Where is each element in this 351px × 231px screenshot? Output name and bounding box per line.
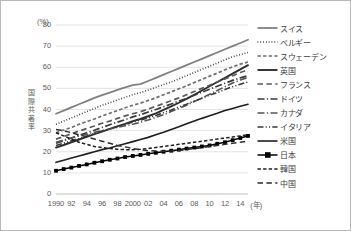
legend-label: カナダ — [280, 107, 303, 118]
y-axis-tick-label: 30 — [31, 126, 51, 135]
legend-line-icon — [257, 37, 278, 47]
y-axis-tick-label: 40 — [31, 105, 51, 114]
y-axis-tick-label: 70 — [31, 41, 51, 50]
y-axis-tick-label: 50 — [31, 83, 51, 92]
legend-label: 中国 — [280, 178, 295, 189]
legend-label: 日本 — [280, 149, 295, 160]
series-marker — [77, 164, 81, 168]
series-marker — [131, 154, 135, 158]
chart-frame: (%) 国際共著率 (年) 01020304050607080199092949… — [0, 0, 351, 231]
series-marker — [62, 167, 66, 171]
legend-item[interactable]: イタリア — [257, 120, 349, 134]
legend-label: イタリア — [280, 121, 311, 132]
legend-line-icon — [257, 164, 278, 174]
y-axis-tick-label: 60 — [31, 62, 51, 71]
y-axis-tick-label: 20 — [31, 147, 51, 156]
series-marker — [69, 166, 73, 170]
series-marker — [85, 163, 89, 167]
series-marker — [231, 138, 235, 142]
x-axis-unit-label: (年) — [250, 199, 262, 210]
legend-line-icon — [257, 178, 278, 188]
legend-line-icon — [257, 65, 278, 75]
legend-item[interactable]: ベルギー — [257, 35, 349, 49]
y-axis-tick-label: 80 — [31, 20, 51, 29]
legend-item[interactable]: カナダ — [257, 106, 349, 120]
legend-label: ベルギー — [280, 37, 311, 48]
legend-item[interactable]: 米国 — [257, 134, 349, 148]
legend-line-icon — [257, 122, 278, 132]
legend-item[interactable]: 英国 — [257, 63, 349, 77]
legend-label: ドイツ — [280, 93, 303, 104]
legend-label: フランス — [280, 79, 311, 90]
legend-line-icon — [257, 23, 278, 33]
legend-line-icon — [257, 94, 278, 104]
legend-line-icon — [257, 108, 278, 118]
legend-line-icon — [257, 136, 278, 146]
series-marker — [146, 152, 150, 156]
legend-item[interactable]: スウェーデン — [257, 49, 349, 63]
legend-item[interactable]: ドイツ — [257, 91, 349, 105]
legend-label: 米国 — [280, 135, 295, 146]
series-marker — [93, 161, 97, 165]
series-marker — [108, 158, 112, 162]
chart-legend: スイスベルギースウェーデン英国フランスドイツカナダイタリア米国日本韓国中国 — [257, 21, 349, 190]
legend-label: 英国 — [280, 65, 295, 76]
series-marker — [116, 157, 120, 161]
legend-item[interactable]: 日本 — [257, 148, 349, 162]
legend-item[interactable]: フランス — [257, 77, 349, 91]
legend-item[interactable]: 韓国 — [257, 162, 349, 176]
legend-line-icon — [257, 150, 278, 160]
legend-item[interactable]: 中国 — [257, 176, 349, 190]
legend-label: スウェーデン — [280, 51, 326, 62]
series-line — [56, 62, 248, 133]
legend-item[interactable]: スイス — [257, 21, 349, 35]
series-marker — [100, 159, 104, 163]
y-axis-tick-label: 0 — [31, 189, 51, 198]
legend-label: 韓国 — [280, 163, 295, 174]
series-line — [56, 136, 248, 171]
series-marker — [54, 169, 58, 173]
series-marker — [192, 146, 196, 150]
series-marker — [123, 155, 127, 159]
x-axis-tick-label: 14 — [231, 199, 249, 208]
legend-line-icon — [257, 51, 278, 61]
y-axis-tick-label: 10 — [31, 168, 51, 177]
series-marker — [246, 134, 250, 138]
legend-label: スイス — [280, 23, 303, 34]
series-line — [56, 40, 248, 114]
series-marker — [139, 153, 143, 157]
legend-line-icon — [257, 79, 278, 89]
